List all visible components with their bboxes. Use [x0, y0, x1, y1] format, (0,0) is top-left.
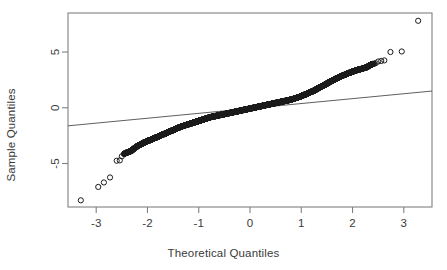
x-tick-label: 2: [349, 217, 355, 229]
x-tick-label: 1: [298, 217, 304, 229]
data-points: [78, 18, 421, 203]
y-axis: -505: [49, 49, 68, 169]
y-tick-label: 5: [49, 49, 61, 55]
y-tick-label: -5: [49, 158, 61, 168]
x-tick-label: -3: [91, 217, 101, 229]
x-tick-label: 0: [247, 217, 253, 229]
data-point: [96, 184, 101, 189]
x-tick-label: -1: [194, 217, 204, 229]
data-point: [399, 49, 404, 54]
data-point: [107, 175, 112, 180]
x-axis: -3-2-10123: [91, 207, 407, 229]
data-point: [382, 58, 387, 63]
data-point: [101, 180, 106, 185]
data-point: [78, 198, 83, 203]
x-tick-label: -2: [142, 217, 152, 229]
qq-plot-canvas: -3-2-10123 -505: [0, 0, 447, 270]
x-axis-title: Theoretical Quantiles: [0, 247, 447, 259]
qq-plot-figure: -3-2-10123 -505 Theoretical Quantiles Sa…: [0, 0, 447, 270]
data-point: [388, 49, 393, 54]
x-tick-label: 3: [401, 217, 407, 229]
data-point: [416, 18, 421, 23]
y-axis-title: Sample Quantiles: [0, 0, 22, 270]
y-tick-label: 0: [49, 105, 61, 111]
